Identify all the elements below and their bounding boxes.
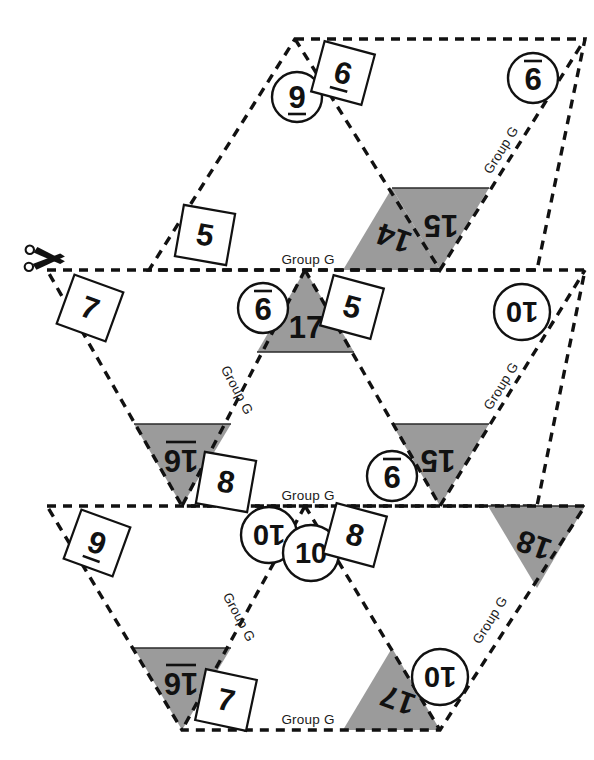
- token-shaded-15-row2: 15: [421, 443, 455, 478]
- group-label-bot-top: Group G: [281, 488, 334, 503]
- group-label-bot-bottom: Group G: [281, 712, 334, 727]
- token-square-7-row2: 7: [57, 275, 124, 342]
- token-shaded-16-row3: 16: [164, 665, 198, 701]
- token-square-9-row3: 9: [64, 510, 131, 577]
- token-circle-10-row3-right: 10: [412, 649, 468, 705]
- group-label-mid-left: Group G: [218, 363, 256, 417]
- token-value: 9: [524, 61, 541, 96]
- token-circle-9-row2: 9: [238, 283, 288, 333]
- token-value: 9: [383, 459, 400, 494]
- group-label-bot-left: Group G: [220, 590, 258, 644]
- token-circle-9-row1-right: 9: [508, 53, 558, 103]
- token-circle-10-row2: 10: [494, 284, 550, 340]
- token-value: 15: [424, 208, 458, 243]
- token-value: 10: [424, 661, 456, 693]
- token-value: 16: [164, 443, 198, 478]
- group-label-top-right: Group G: [481, 123, 522, 176]
- token-value: 9: [254, 291, 271, 326]
- token-value: 9: [288, 80, 305, 115]
- token-shaded-15-row1: 15: [424, 208, 458, 243]
- token-value: 10: [253, 519, 285, 551]
- token-shaded-17-row2: 17: [289, 310, 323, 345]
- flash-card-sheet: Group G Group G Group G Group G Group G …: [0, 0, 594, 760]
- token-circle-9-row2-right: 9: [367, 451, 417, 501]
- group-label-bot-right: Group G: [470, 593, 511, 646]
- token-value: 16: [164, 666, 198, 701]
- token-value: 17: [289, 310, 323, 345]
- token-square-7-row3: 7: [195, 669, 257, 731]
- scissors-icon: [25, 246, 65, 271]
- token-square-8-row2: 8: [196, 452, 256, 512]
- token-value: 15: [421, 443, 455, 478]
- group-label-mid-top: Group G: [281, 252, 334, 267]
- token-square-5-row1: 5: [175, 205, 235, 265]
- token-shaded-16-row2: 16: [164, 442, 198, 478]
- token-value: 10: [506, 296, 538, 328]
